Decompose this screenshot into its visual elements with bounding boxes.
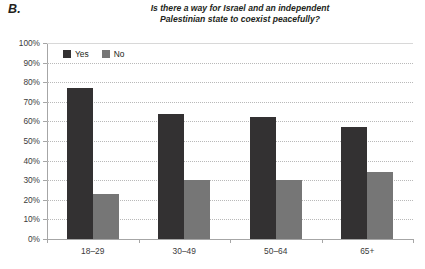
y-axis-tick-label: 20%: [23, 195, 40, 205]
y-axis-tick-label: 30%: [23, 175, 40, 185]
chart-title-line-2: Palestinian state to coexist peacefully?: [95, 14, 385, 25]
y-axis-tick: [43, 219, 47, 220]
bar-no[interactable]: [276, 180, 302, 239]
legend-swatch-icon: [102, 50, 110, 58]
legend-swatch-icon: [63, 50, 71, 58]
bar-no[interactable]: [367, 172, 393, 239]
x-axis-tick: [413, 239, 414, 243]
bar-group: [341, 43, 393, 239]
y-axis-tick-label: 70%: [23, 97, 40, 107]
y-axis-tick: [43, 63, 47, 64]
y-axis-tick: [43, 200, 47, 201]
y-axis-tick-label: 10%: [23, 214, 40, 224]
chart-title-line-1: Is there a way for Israel and an indepen…: [95, 3, 385, 14]
y-axis-tick-label: 0%: [28, 234, 40, 244]
y-axis-tick: [43, 141, 47, 142]
legend-item-yes[interactable]: Yes: [63, 49, 89, 59]
y-axis-tick: [43, 43, 47, 44]
bar-group: [158, 43, 210, 239]
x-axis-category-label: 65+: [360, 246, 374, 256]
y-axis-tick: [43, 180, 47, 181]
x-axis-category-label: 50–64: [264, 246, 287, 256]
x-axis-tick: [47, 239, 48, 243]
plot-area: 0%10%20%30%40%50%60%70%80%90%100% YesNo: [47, 43, 413, 239]
y-axis-tick-label: 90%: [23, 58, 40, 68]
bar-yes[interactable]: [158, 114, 184, 239]
panel-label: B.: [8, 2, 21, 16]
bar-no[interactable]: [93, 194, 119, 239]
x-axis-tick: [139, 239, 140, 243]
bar-group: [250, 43, 302, 239]
x-axis-category-label: 30–49: [173, 246, 196, 256]
bar-no[interactable]: [184, 180, 210, 239]
y-axis-tick-label: 80%: [23, 77, 40, 87]
chart-title: Is there a way for Israel and an indepen…: [95, 3, 385, 24]
legend-item-no[interactable]: No: [102, 49, 125, 59]
y-axis-tick-label: 100%: [19, 38, 40, 48]
y-axis-tick-label: 40%: [23, 156, 40, 166]
legend-label: No: [114, 49, 125, 59]
x-axis-category-label: 18–29: [81, 246, 104, 256]
bar-yes[interactable]: [341, 127, 367, 239]
legend-label: Yes: [75, 49, 89, 59]
x-axis-tick: [322, 239, 323, 243]
y-axis-tick: [43, 161, 47, 162]
clipped-caption-row: [0, 261, 425, 269]
y-axis-tick-label: 60%: [23, 116, 40, 126]
x-axis-tick: [230, 239, 231, 243]
y-axis-tick: [43, 82, 47, 83]
y-axis-tick: [43, 121, 47, 122]
chart-panel: B. Is there a way for Israel and an inde…: [0, 0, 425, 269]
bar-yes[interactable]: [250, 117, 276, 239]
y-axis-tick-label: 50%: [23, 136, 40, 146]
chart-legend: YesNo: [63, 49, 124, 59]
y-axis-tick: [43, 102, 47, 103]
bar-group: [67, 43, 119, 239]
bar-yes[interactable]: [67, 88, 93, 239]
